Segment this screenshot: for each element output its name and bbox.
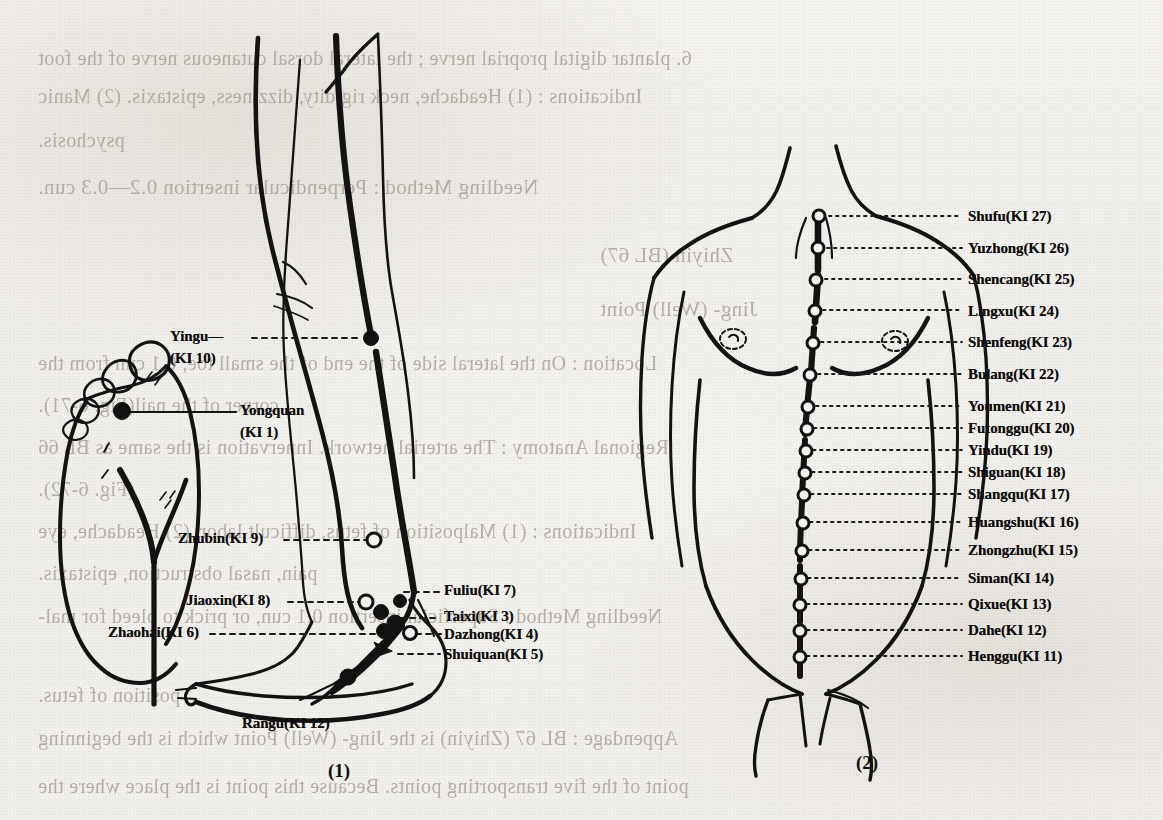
label-zhaohai: Zhaohai(KI 6) (108, 624, 199, 641)
label-yingu-code: (KI 10) (170, 350, 216, 367)
figure-2-caption: (2) (856, 752, 878, 774)
label-shufu: Shufu(KI 27) (968, 208, 1051, 225)
label-dahe: Dahe(KI 12) (968, 622, 1046, 639)
label-shiguan: Shiguan(KI 18) (968, 464, 1065, 481)
label-futonggu: Futonggu(KI 20) (968, 420, 1074, 437)
label-shencang: Shencang(KI 25) (968, 271, 1074, 288)
label-bulang: Bulang(KI 22) (968, 366, 1059, 383)
label-lingxu: Lingxu(KI 24) (968, 303, 1059, 320)
label-huangshu: Huangshu(KI 16) (968, 514, 1079, 531)
label-shangqu: Shangqu(KI 17) (968, 486, 1070, 503)
label-youmen: Youmen(KI 21) (968, 398, 1065, 415)
figure-1-caption: (1) (328, 760, 350, 782)
label-taixi: Taixi(KI 3) (444, 608, 514, 625)
label-qixue: Qixue(KI 13) (968, 596, 1051, 613)
label-shenfeng: Shenfeng(KI 23) (968, 334, 1072, 351)
label-fuliu: Fuliu(KI 7) (444, 582, 516, 599)
label-zhongzhu: Zhongzhu(KI 15) (968, 542, 1078, 559)
label-shuiquan: Shuiquan(KI 5) (444, 646, 543, 663)
label-yuzhong: Yuzhong(KI 26) (968, 240, 1069, 257)
label-yongquan-code: (KI 1) (240, 424, 278, 441)
label-yingu: Yingu— (170, 328, 223, 345)
label-yindu: Yindu(KI 19) (968, 442, 1053, 459)
label-henggu: Henggu(KI 11) (968, 648, 1062, 665)
label-zhubin: Zhubin(KI 9) (178, 530, 263, 547)
label-jiaoxin: Jiaoxin(KI 8) (186, 592, 270, 609)
label-yongquan: Yongquan (240, 402, 304, 419)
label-dazhong: Dazhong(KI 4) (444, 626, 538, 643)
label-siman: Siman(KI 14) (968, 570, 1054, 587)
label-rangu: Rangu(KI 12) (242, 715, 330, 732)
